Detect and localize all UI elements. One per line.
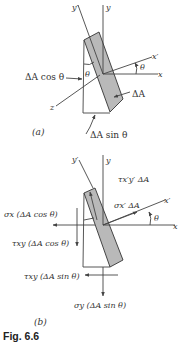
panel-b-label: (b) — [34, 317, 47, 327]
theta-label-b: θ — [154, 214, 159, 223]
label-dA-cos: ΔA cos θ — [25, 72, 64, 82]
label-sigma-x-prime: σx′ ΔA — [114, 201, 140, 210]
sigma-x-tick — [84, 218, 94, 220]
x-label: x — [158, 70, 163, 79]
panel-a: y′ y x′ x z θ θ ΔA cos θ ΔA ΔA sin θ (a) — [25, 3, 163, 140]
label-dA-sin: ΔA sin θ — [90, 130, 127, 140]
panel-a-label: (a) — [32, 127, 45, 137]
inclined-face-slab — [84, 32, 123, 112]
sigma-x-prime-arrow — [103, 212, 137, 225]
leader-cos — [66, 78, 82, 79]
x-prime-label: x′ — [152, 52, 159, 61]
y-prime-label: y′ — [71, 3, 79, 12]
y-prime-label-b: y′ — [71, 155, 79, 164]
y-label-b: y — [105, 156, 111, 165]
inclined-face-slab-b — [84, 188, 123, 267]
x-prime-label-b: x′ — [164, 196, 171, 205]
label-tau-xy-left: τxy (ΔA cos θ) — [12, 239, 69, 248]
label-tau-xy-bottom: τxy (ΔA sin θ) — [24, 272, 80, 281]
theta-arc-b — [149, 212, 151, 225]
label-dA: ΔA — [132, 89, 145, 99]
y-label: y — [105, 3, 111, 12]
y-prime-axis-b — [79, 160, 93, 188]
theta-label-x: θ — [140, 63, 145, 72]
stress-transformation-figure: y′ y x′ x z θ θ ΔA cos θ ΔA ΔA sin θ (a) — [0, 0, 185, 354]
x-label-b: x — [173, 222, 178, 231]
z-label: z — [49, 103, 55, 112]
panel-b: y′ y x′ x θ τx′y′ ΔA σx′ ΔA σx (ΔA cos θ… — [4, 155, 178, 327]
theta-arc-x — [135, 63, 137, 74]
label-sigma-x: σx (ΔA cos θ) — [4, 210, 58, 219]
theta-label-left: θ — [85, 70, 90, 79]
label-sigma-y: σy (ΔA sin θ) — [74, 301, 126, 310]
label-tau-xpyp: τx′y′ ΔA — [118, 175, 149, 184]
figure-caption: Fig. 6.6 — [3, 330, 39, 342]
